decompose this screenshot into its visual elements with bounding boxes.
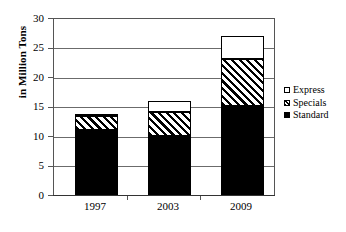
y-tick-label-20: 20 xyxy=(14,72,44,83)
y-tick-label-25: 25 xyxy=(14,42,44,53)
legend-label-standard: Standard xyxy=(293,109,329,122)
bar-2009 xyxy=(221,36,264,195)
y-tick-label-0: 0 xyxy=(14,190,44,201)
bar-segment-2003-standard xyxy=(148,136,191,195)
filled-square-icon xyxy=(284,112,290,118)
bar-segment-2003-express xyxy=(148,101,191,112)
legend-label-express: Express xyxy=(293,84,325,97)
legend-item-express: Express xyxy=(284,84,329,97)
x-tick-mark-2 xyxy=(200,196,201,200)
chart-legend: Express Specials Standard xyxy=(284,84,329,122)
bar-segment-1997-express xyxy=(75,114,118,116)
empty-square-icon xyxy=(284,87,290,93)
bar-segment-2009-express xyxy=(221,36,264,59)
x-axis-line xyxy=(53,195,275,196)
legend-label-specials: Specials xyxy=(293,97,326,110)
bar-segment-2003-specials xyxy=(148,112,191,136)
bar-segment-1997-standard xyxy=(75,130,118,195)
y-tick-label-30: 30 xyxy=(14,13,44,24)
bar-2003 xyxy=(148,101,191,195)
x-tick-mark-1 xyxy=(127,196,128,200)
bar-segment-2009-specials xyxy=(221,59,264,107)
y-tick-label-5: 5 xyxy=(14,160,44,171)
y-tick-label-15: 15 xyxy=(14,101,44,112)
x-tick-label-1997: 1997 xyxy=(65,200,125,212)
bar-1997 xyxy=(75,115,118,195)
legend-item-specials: Specials xyxy=(284,97,329,110)
x-tick-label-2009: 2009 xyxy=(211,200,271,212)
stacked-bar-chart: in Million Tons 30 25 20 15 10 5 0 xyxy=(0,0,346,232)
y-tick-label-10: 10 xyxy=(14,131,44,142)
bar-segment-1997-specials xyxy=(75,116,118,130)
plot-area xyxy=(53,18,275,196)
bar-segment-2009-standard xyxy=(221,106,264,195)
hatched-square-icon xyxy=(284,100,290,106)
x-tick-label-2003: 2003 xyxy=(138,200,198,212)
legend-item-standard: Standard xyxy=(284,109,329,122)
